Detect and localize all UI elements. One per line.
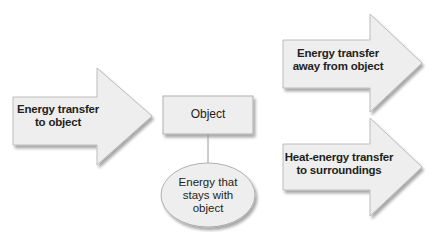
output-arrow-1-label: Energy transfer away from object xyxy=(283,47,393,73)
retained-line3: object xyxy=(168,202,248,215)
retained-line2: stays with xyxy=(168,189,248,202)
retained-line1: Energy that xyxy=(168,176,248,189)
output-arrow-2-label: Heat-energy transfer to surroundings xyxy=(281,151,397,177)
object-label: Object xyxy=(163,108,253,121)
input-arrow-line1: Energy transfer xyxy=(13,103,103,116)
retained-energy-label: Energy that stays with object xyxy=(168,176,248,215)
output-arrow-1-line2: away from object xyxy=(283,60,393,73)
output-arrow-2-line1: Heat-energy transfer xyxy=(281,151,397,164)
object-box-text: Object xyxy=(163,108,253,121)
output-arrow-1-line1: Energy transfer xyxy=(283,47,393,60)
input-arrow-label: Energy transfer to object xyxy=(13,103,103,129)
input-arrow-line2: to object xyxy=(13,116,103,129)
output-arrow-2-line2: to surroundings xyxy=(281,164,397,177)
